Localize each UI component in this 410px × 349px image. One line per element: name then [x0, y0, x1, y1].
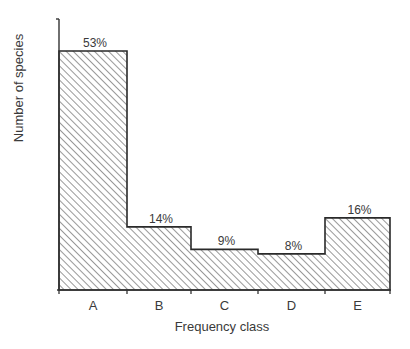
category-label: B: [155, 298, 164, 313]
value-label: 8%: [285, 239, 303, 253]
bars-group: [59, 51, 390, 290]
category-label: A: [89, 298, 98, 313]
histogram-bars: [59, 51, 390, 290]
category-label: E: [353, 298, 362, 313]
value-label: 53%: [83, 36, 107, 50]
value-label: 14%: [149, 212, 173, 226]
category-label: C: [220, 298, 229, 313]
value-label: 9%: [218, 234, 236, 248]
value-label: 16%: [347, 203, 371, 217]
category-labels-group: ABCDE: [89, 298, 363, 313]
y-axis-label: Number of species: [11, 33, 26, 142]
category-label: D: [287, 298, 296, 313]
x-axis-label: Frequency class: [175, 319, 270, 334]
histogram-chart: ABCDE 53%14%9%8%16% Frequency class Numb…: [0, 0, 410, 349]
